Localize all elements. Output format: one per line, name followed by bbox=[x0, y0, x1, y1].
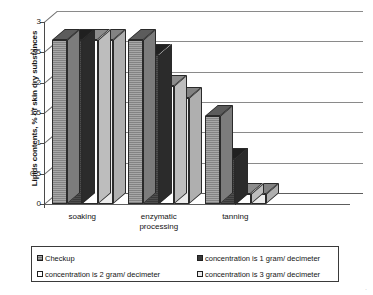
bar-front-face bbox=[205, 116, 220, 204]
bar bbox=[128, 29, 156, 204]
x-axis-label: enzymaticprocessing bbox=[119, 212, 199, 232]
legend-item-checkup[interactable]: Checkup bbox=[37, 254, 197, 263]
legend-row-1: Checkup concentration is 1 gram/ decimet… bbox=[37, 250, 333, 266]
legend-label: Checkup bbox=[45, 254, 75, 263]
legend-item-conc-1[interactable]: concentration is 1 gram/ decimeter bbox=[197, 254, 320, 263]
bar-side-face bbox=[159, 44, 172, 204]
bar bbox=[52, 29, 80, 204]
bar-side-face bbox=[189, 87, 202, 204]
scan-artifact-speck: · bbox=[365, 286, 367, 292]
gridline bbox=[57, 11, 363, 12]
bar-side-face bbox=[174, 75, 187, 204]
legend-swatch-icon bbox=[37, 255, 43, 261]
legend-label: concentration is 3 gram/ decimeter bbox=[205, 270, 320, 279]
legend-box: Checkup concentration is 1 gram/ decimet… bbox=[31, 246, 339, 282]
x-axis-label-line: tanning bbox=[195, 212, 275, 222]
bar-side-face bbox=[143, 29, 156, 204]
x-axis-label: tanning bbox=[195, 212, 275, 222]
x-axis-label: soaking bbox=[42, 212, 122, 222]
legend-item-conc-2[interactable]: concentration is 2 gram/ decimeter bbox=[37, 270, 197, 279]
bar-side-face bbox=[220, 105, 233, 204]
x-axis-label-line: processing bbox=[119, 222, 199, 232]
x-axis-label-line: enzymatic bbox=[119, 212, 199, 222]
bar-side-face bbox=[113, 29, 126, 204]
plot-area: 00,511,522,53 bbox=[32, 18, 362, 208]
bar-side-face bbox=[98, 29, 111, 204]
bar bbox=[205, 105, 233, 204]
legend-swatch-icon bbox=[197, 255, 203, 261]
legend-label: concentration is 2 gram/ decimeter bbox=[45, 270, 160, 279]
legend-label: concentration is 1 gram/ decimeter bbox=[205, 254, 320, 263]
bar-front-face bbox=[128, 40, 143, 204]
bar-side-face bbox=[67, 29, 80, 204]
x-axis-label-line: soaking bbox=[42, 212, 122, 222]
legend-swatch-icon bbox=[197, 271, 203, 277]
bars-layer bbox=[32, 18, 362, 208]
chart-figure: Lipids contents, % of skin dry substance… bbox=[0, 0, 373, 295]
legend-item-conc-3[interactable]: concentration is 3 gram/ decimeter bbox=[197, 270, 320, 279]
legend-swatch-icon bbox=[37, 271, 43, 277]
bar-front-face bbox=[52, 40, 67, 204]
legend-row-2: concentration is 2 gram/ decimeter conce… bbox=[37, 266, 333, 282]
bar-side-face bbox=[82, 29, 95, 204]
